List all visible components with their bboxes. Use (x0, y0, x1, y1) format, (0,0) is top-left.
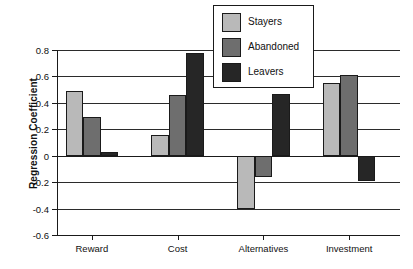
y-tick-label: -0.6 (5, 230, 49, 241)
legend-label: Stayers (248, 16, 282, 27)
y-tick-mark (52, 103, 58, 104)
bar (66, 91, 84, 156)
y-tick-mark (52, 182, 58, 183)
bar (340, 75, 358, 156)
legend-swatch-icon (222, 63, 241, 82)
y-tick-label: 0.2 (5, 124, 49, 135)
x-tick-mark (263, 235, 264, 240)
x-tick-mark (349, 235, 350, 240)
y-tick-label: 0.8 (5, 45, 49, 56)
bar (169, 95, 187, 156)
y-tick-mark (52, 129, 58, 130)
y-tick-label: -0.4 (5, 203, 49, 214)
bar (255, 156, 273, 177)
bar (272, 94, 290, 156)
y-axis-tick-labels: 0.80.60.40.20-0.2-0.4-0.6 (0, 0, 49, 269)
bar (101, 152, 119, 156)
bar (323, 83, 341, 156)
gridline (57, 209, 400, 210)
legend-label: Leavers (248, 66, 284, 77)
y-tick-mark (52, 156, 58, 157)
gridline (57, 156, 400, 157)
y-tick-label: 0.4 (5, 97, 49, 108)
y-tick-label: 0.6 (5, 71, 49, 82)
y-tick-mark (52, 76, 58, 77)
legend-swatch-icon (222, 38, 241, 57)
bar (151, 135, 169, 156)
x-tick-mark (92, 235, 93, 240)
bar (237, 156, 255, 209)
x-tick-mark (178, 235, 179, 240)
bar (83, 117, 101, 155)
bar (186, 53, 204, 156)
y-tick-mark (52, 209, 58, 210)
y-tick-label: 0 (5, 150, 49, 161)
chart-legend: StayersAbandonedLeavers (213, 5, 314, 88)
legend-swatch-icon (222, 13, 241, 32)
y-tick-mark (52, 235, 58, 236)
gridline (57, 182, 400, 183)
y-tick-label: -0.2 (5, 177, 49, 188)
bar (358, 156, 376, 181)
regression-coefficient-bar-chart: Regression Coefficient 0.80.60.40.20-0.2… (0, 0, 413, 269)
y-tick-mark (52, 50, 58, 51)
x-tick-label: Investment (294, 243, 404, 254)
legend-label: Abandoned (248, 41, 299, 52)
